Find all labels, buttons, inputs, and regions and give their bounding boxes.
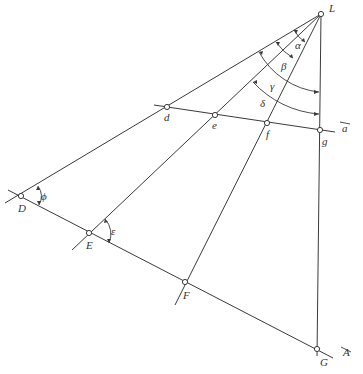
label-D: D bbox=[17, 202, 26, 214]
arrowhead-icon bbox=[253, 80, 257, 84]
line-A bbox=[8, 190, 333, 358]
label-G: G bbox=[320, 356, 328, 368]
point-g bbox=[317, 127, 322, 132]
label-gamma: γ bbox=[270, 80, 275, 92]
arrowhead-icon bbox=[314, 112, 319, 116]
ray-L-E bbox=[72, 14, 321, 250]
point-F bbox=[182, 279, 187, 284]
label-d: d bbox=[164, 111, 170, 123]
point-D bbox=[18, 193, 23, 198]
label-g: g bbox=[322, 135, 328, 147]
label-e: e bbox=[212, 119, 217, 131]
label-alpha: α bbox=[295, 39, 301, 51]
arrowhead-icon bbox=[276, 42, 280, 46]
label-phi: ϕ bbox=[41, 190, 47, 202]
ray-L-G bbox=[317, 14, 321, 356]
point-L bbox=[318, 11, 323, 16]
label-beta: β bbox=[280, 60, 287, 72]
label-L: L bbox=[328, 2, 335, 14]
point-G bbox=[314, 346, 319, 351]
label-E: E bbox=[85, 239, 93, 251]
point-E bbox=[86, 230, 91, 235]
point-d bbox=[164, 104, 169, 109]
label-epsilon: ε bbox=[111, 225, 116, 237]
line-a bbox=[154, 105, 335, 132]
label-f: f bbox=[266, 128, 271, 140]
arrowhead-icon bbox=[294, 30, 298, 34]
angle-gamma-arc bbox=[259, 52, 319, 92]
perspective-diagram: L d e f g D E F G α β γ δ ϕ ε a A bbox=[0, 0, 363, 374]
arrowhead-icon bbox=[314, 90, 319, 94]
label-delta: δ bbox=[260, 97, 266, 109]
point-f bbox=[264, 120, 269, 125]
point-e bbox=[212, 112, 217, 117]
label-F: F bbox=[182, 289, 190, 301]
